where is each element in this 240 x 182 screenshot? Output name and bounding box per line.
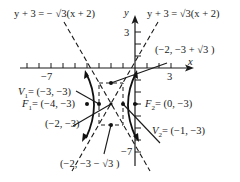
- x-tick-label-neg7: −7: [41, 71, 52, 82]
- y-tick-label-3: 3: [124, 27, 129, 38]
- x-axis-label: x: [187, 56, 193, 67]
- f2-point: [133, 102, 137, 106]
- y-tick-label-neg7: −7: [121, 146, 132, 157]
- asymptote-left-label: y + 3 = − √3(x + 2): [14, 8, 96, 20]
- y-axis-label: y: [123, 7, 129, 18]
- v2-point: [121, 102, 125, 106]
- v1-point: [97, 102, 101, 106]
- f1-point: [85, 102, 89, 106]
- asymptotes: [64, 22, 158, 171]
- asymptote-right-label: y + 3 = √3(x + 2): [147, 8, 220, 20]
- top-point: [109, 81, 113, 85]
- hyperbola-figure: y + 3 = − √3(x + 2) y + 3 = √3(x + 2) y …: [0, 0, 240, 182]
- bottom-point: [109, 123, 113, 127]
- f1-label: F1= (−4, −3): [21, 98, 76, 112]
- bottom-point-label: (−2, −3 − √3 ): [60, 158, 120, 170]
- v2-label: V2= (−1, −3): [152, 125, 206, 139]
- center-label: (−2, −3): [45, 118, 80, 130]
- center-point: [109, 102, 112, 105]
- f2-label: F2= (0, −3): [144, 98, 193, 112]
- x-ticks: [27, 63, 171, 68]
- x-tick-label-3: 3: [167, 71, 172, 82]
- top-point-label: (−2, −3 + √3 ): [155, 44, 215, 56]
